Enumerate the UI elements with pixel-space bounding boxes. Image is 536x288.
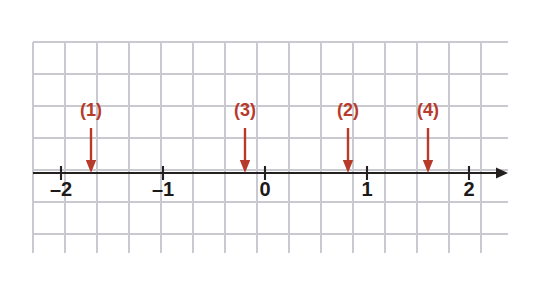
- marker-label-3: (2): [337, 100, 359, 120]
- marker-label-2: (3): [234, 100, 256, 120]
- axis-tick-label-4: 2: [463, 178, 474, 200]
- marker-arrowhead-icon-2: [240, 160, 250, 173]
- axis-tick-label-0: –2: [50, 178, 72, 200]
- marker-2: (3): [234, 100, 256, 173]
- number-line-axis: [33, 168, 508, 179]
- marker-arrowhead-icon-3: [343, 160, 353, 173]
- axis-arrowhead-icon: [496, 168, 508, 179]
- marker-4: (4): [417, 100, 439, 173]
- grid-lines: [33, 42, 508, 253]
- marker-3: (2): [337, 100, 359, 173]
- axis-tick-label-2: 0: [259, 178, 270, 200]
- axis-tick-label-1: –1: [152, 178, 174, 200]
- marker-arrowhead-icon-4: [423, 160, 433, 173]
- axis-tick-labels: –2–1012: [50, 178, 475, 200]
- marker-1: (1): [80, 100, 102, 173]
- axis-tick-label-3: 1: [361, 178, 372, 200]
- marker-label-4: (4): [417, 100, 439, 120]
- number-line-canvas: –2–1012 (1)(3)(2)(4): [0, 0, 536, 288]
- marker-arrowhead-icon-1: [86, 160, 96, 173]
- number-line-figure: –2–1012 (1)(3)(2)(4): [0, 0, 536, 288]
- marker-label-1: (1): [80, 100, 102, 120]
